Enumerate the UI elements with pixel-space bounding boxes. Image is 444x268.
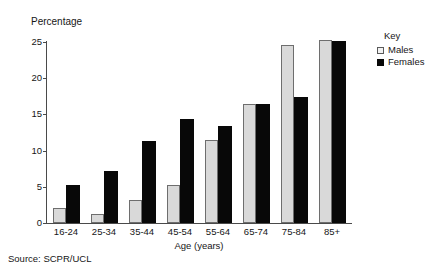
bar-group xyxy=(313,42,351,223)
x-tick-label: 75-84 xyxy=(275,226,313,237)
y-tick-label: 5 xyxy=(37,182,42,192)
bar-males xyxy=(281,45,295,223)
y-axis-ticks: 0510152025 xyxy=(0,0,42,268)
bar-males xyxy=(205,140,219,223)
legend-item-females: Females xyxy=(377,56,424,68)
bar-females xyxy=(180,119,194,223)
bar-males xyxy=(91,214,105,223)
bar-males xyxy=(129,200,143,223)
x-tick-label: 45-54 xyxy=(161,226,199,237)
bar-females xyxy=(104,171,118,223)
legend-title: Key xyxy=(384,30,424,42)
bar-group xyxy=(161,42,199,223)
legend-label-males: Males xyxy=(388,44,413,56)
bar-females xyxy=(294,97,308,223)
bar-group xyxy=(237,42,275,223)
bar-females xyxy=(256,104,270,223)
legend-swatch-females-icon xyxy=(377,59,384,66)
bar-males xyxy=(53,208,67,223)
y-tick-label: 10 xyxy=(31,146,42,156)
x-tick-label: 16-24 xyxy=(47,226,85,237)
bar-chart-figure: Percentage 0510152025 Age (years) Key Ma… xyxy=(0,0,444,268)
bar-group xyxy=(123,42,161,223)
legend: Key Males Females xyxy=(377,30,424,68)
legend-item-males: Males xyxy=(377,44,424,56)
bar-group xyxy=(275,42,313,223)
y-tick-label: 20 xyxy=(31,73,42,83)
y-tick-label: 25 xyxy=(31,37,42,47)
bar-males xyxy=(319,40,333,223)
bar-males xyxy=(243,104,257,223)
bar-females xyxy=(332,41,346,223)
y-tick-label: 15 xyxy=(31,109,42,119)
bar-group xyxy=(47,42,85,223)
x-tick-label: 55-64 xyxy=(199,226,237,237)
x-axis-line xyxy=(46,223,352,224)
x-axis-title: Age (years) xyxy=(47,240,351,251)
x-tick-label: 25-34 xyxy=(85,226,123,237)
y-tick-label: 0 xyxy=(37,218,42,228)
legend-swatch-males-icon xyxy=(377,47,384,54)
bar-males xyxy=(167,185,181,223)
bar-group xyxy=(199,42,237,223)
x-tick-label: 85+ xyxy=(313,226,351,237)
bar-females xyxy=(218,126,232,223)
source-note: Source: SCPR/UCL xyxy=(8,253,91,264)
x-tick-label: 35-44 xyxy=(123,226,161,237)
bar-females xyxy=(142,141,156,223)
legend-label-females: Females xyxy=(388,56,424,68)
x-tick-label: 65-74 xyxy=(237,226,275,237)
bar-group xyxy=(85,42,123,223)
plot-area xyxy=(47,42,351,223)
bar-females xyxy=(66,185,80,223)
